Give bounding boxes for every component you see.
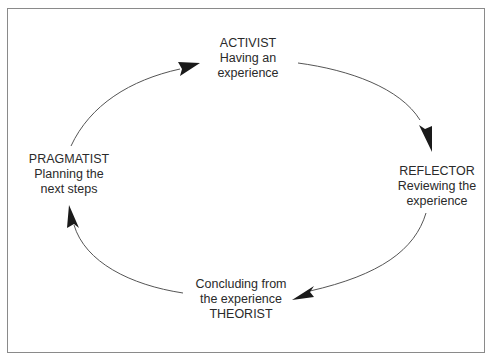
stage-description: Concluding from — [186, 277, 296, 292]
stage-description: Having an — [198, 51, 298, 66]
stage-role: THEORIST — [186, 307, 296, 322]
stage-description: Reviewing the — [382, 179, 492, 194]
stage-description: the experience — [186, 292, 296, 307]
arc-reflector-to-theorist — [310, 213, 426, 291]
stage-role: REFLECTOR — [382, 164, 492, 179]
stage-activist: ACTIVIST Having an experience — [198, 36, 298, 81]
stage-description: Planning the — [14, 167, 124, 182]
arc-activist-to-reflector — [298, 63, 420, 120]
stage-pragmatist: PRAGMATIST Planning the next steps — [14, 152, 124, 197]
stage-description: experience — [198, 66, 298, 81]
stage-role: ACTIVIST — [198, 36, 298, 51]
arc-pragmatist-to-activist — [71, 69, 180, 146]
arrowhead-to-pragmatist-icon — [67, 205, 79, 228]
stage-reflector: REFLECTOR Reviewing the experience — [382, 164, 492, 209]
stage-theorist: Concluding from the experience THEORIST — [186, 277, 296, 322]
arrowhead-to-activist-icon — [178, 62, 200, 76]
arrowhead-to-reflector-icon — [419, 125, 432, 152]
stage-description: next steps — [14, 182, 124, 197]
stage-description: experience — [382, 194, 492, 209]
arc-theorist-to-pragmatist — [74, 225, 183, 293]
stage-role: PRAGMATIST — [14, 152, 124, 167]
